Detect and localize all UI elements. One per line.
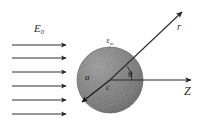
r-vector-line [110,12,182,80]
sphere-radius-label: a [85,72,90,82]
scattering-diagram-figure: E0 εm Z r θ a c [0,0,206,133]
theta-angle-label: θ [128,69,133,79]
medium-permittivity-label: εm [107,36,114,46]
sphere-center-label: c [106,82,110,92]
diagram-canvas: E0 εm Z r θ a c [0,0,206,133]
incident-field-arrow-group [12,45,66,114]
incident-field-label: E0 [33,22,45,35]
z-axis-label: Z [184,84,191,98]
r-vector-label: r [177,21,181,32]
